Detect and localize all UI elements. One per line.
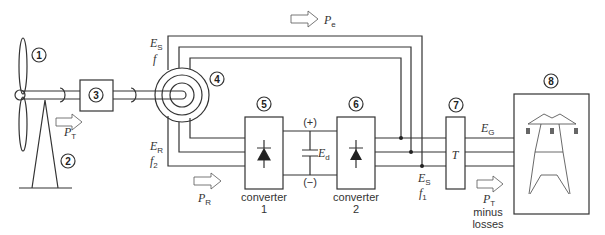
svg-text:f: f <box>153 52 158 66</box>
svg-text:f2: f2 <box>150 154 158 170</box>
svg-text:converter: converter <box>241 191 287 203</box>
shaft <box>22 88 186 102</box>
converter-1 <box>245 117 283 189</box>
svg-text:6: 6 <box>353 99 359 110</box>
rotor-blades <box>15 38 27 151</box>
converter-2 <box>337 117 375 189</box>
stator-lines <box>168 36 422 166</box>
svg-text:minus: minus <box>473 206 503 218</box>
svg-text:5: 5 <box>261 99 267 110</box>
grid-tower <box>514 94 589 214</box>
component-numbers: 1 2 3 4 5 6 7 8 <box>32 48 558 168</box>
svg-text:3: 3 <box>93 90 99 101</box>
generator-rings <box>155 68 209 122</box>
svg-text:T: T <box>452 148 460 162</box>
svg-text:Pe: Pe <box>323 13 336 29</box>
svg-text:8: 8 <box>548 76 554 87</box>
svg-text:f1: f1 <box>419 186 427 202</box>
svg-text:Ed: Ed <box>317 146 330 162</box>
power-arrows <box>56 11 503 192</box>
svg-text:2: 2 <box>353 203 359 215</box>
svg-text:2: 2 <box>65 156 71 167</box>
grid-lines <box>375 136 514 168</box>
svg-text:4: 4 <box>214 74 220 85</box>
svg-text:1: 1 <box>36 50 42 61</box>
svg-text:ES: ES <box>149 36 163 52</box>
svg-text:(+): (+) <box>303 116 317 128</box>
rotor-lines <box>168 116 245 166</box>
svg-text:converter: converter <box>333 191 379 203</box>
dfig-diagram: 1 2 3 4 5 6 7 8 PT Pe PR PT minus losses… <box>0 0 605 235</box>
svg-text:ER: ER <box>149 139 163 155</box>
svg-text:1: 1 <box>261 203 267 215</box>
svg-text:7: 7 <box>453 100 459 111</box>
svg-text:PR: PR <box>197 191 211 207</box>
svg-text:ES: ES <box>417 171 431 187</box>
svg-text:(−): (−) <box>303 176 317 188</box>
svg-text:EG: EG <box>480 121 495 137</box>
svg-text:losses: losses <box>472 218 504 230</box>
